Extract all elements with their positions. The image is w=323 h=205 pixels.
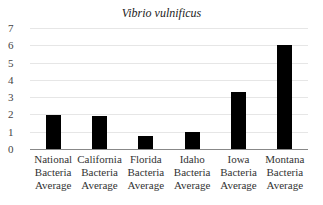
bar xyxy=(277,45,292,149)
y-tick-label: 0 xyxy=(8,143,20,155)
gridline xyxy=(30,114,308,115)
chart-title: Vibrio vulnificus xyxy=(0,6,323,21)
gridline xyxy=(30,80,308,81)
gridline xyxy=(30,45,308,46)
y-tick-label: 3 xyxy=(8,91,20,103)
gridline xyxy=(30,132,308,133)
x-tick-label: IowaBacteriaAverage xyxy=(215,153,263,192)
y-tick-label: 5 xyxy=(8,57,20,69)
x-tick-label: MontanaBacteriaAverage xyxy=(261,153,309,192)
x-axis-line xyxy=(30,149,308,150)
y-tick-label: 6 xyxy=(8,39,20,51)
bar xyxy=(185,132,200,149)
bar xyxy=(46,115,61,149)
y-tick-label: 2 xyxy=(8,108,20,120)
x-tick-label: FloridaBacteriaAverage xyxy=(122,153,170,192)
x-tick-label: IdahoBacteriaAverage xyxy=(168,153,216,192)
x-tick-label: NationalBacteriaAverage xyxy=(29,153,77,192)
gridline xyxy=(30,63,308,64)
bar xyxy=(231,92,246,149)
bar xyxy=(92,116,107,149)
gridline xyxy=(30,97,308,98)
x-tick-label: CaliforniaBacteriaAverage xyxy=(76,153,124,192)
y-tick-label: 4 xyxy=(8,74,20,86)
bar xyxy=(138,136,153,149)
gridline xyxy=(30,28,308,29)
y-tick-label: 1 xyxy=(8,126,20,138)
y-tick-label: 7 xyxy=(8,22,20,34)
